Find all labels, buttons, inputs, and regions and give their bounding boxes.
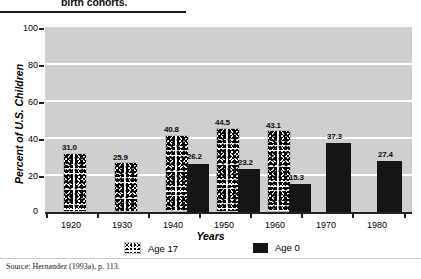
bar-label-age0-1940: 26.2	[187, 152, 202, 161]
x-tick-label-1960: 1960	[255, 220, 295, 230]
legend-swatch-age0-icon	[253, 243, 268, 253]
bar-age17-1940	[165, 135, 189, 213]
bar-label-age17-1930: 25.9	[113, 153, 128, 162]
y-tick-mark-60	[39, 102, 44, 104]
y-tick-mark-100	[39, 28, 44, 30]
bar-label-age0-1970: 37.3	[327, 132, 342, 141]
bar-age0-1960	[289, 184, 311, 212]
gridline-80	[45, 63, 412, 65]
x-axis-line	[45, 212, 412, 214]
x-tick-label-1970: 1970	[306, 220, 346, 230]
x-tick-mark-5	[301, 213, 303, 218]
x-tick-mark-6	[352, 213, 354, 218]
x-tick-label-1980: 1980	[357, 220, 397, 230]
bar-age17-1950	[216, 128, 240, 212]
bar-label-age17-1940: 40.8	[164, 125, 179, 134]
y-tick-mark-80	[39, 65, 44, 67]
bar-age0-1970	[326, 143, 351, 212]
legend-label-age0: Age 0	[275, 242, 300, 253]
x-tick-mark-7	[404, 213, 406, 218]
bar-label-age17-1960: 43.1	[266, 121, 281, 130]
bar-age17-1920	[63, 153, 87, 212]
plot-area: 31.0 25.9 40.8 26.2 44.5 23.2 43.1 15.3 …	[45, 27, 412, 212]
source-note: Source: Hernandez (1993a), p. 113.	[6, 262, 120, 271]
bar-label-age0-1960: 15.3	[289, 173, 304, 182]
x-tick-label-1920: 1920	[51, 220, 91, 230]
x-tick-label-1940: 1940	[153, 220, 193, 230]
source-divider	[0, 258, 421, 259]
x-tick-mark-1	[97, 213, 99, 218]
bar-label-age17-1920: 31.0	[62, 143, 77, 152]
y-tick-mark-40	[39, 139, 44, 141]
x-tick-label-1930: 1930	[102, 220, 142, 230]
gridline-60	[45, 100, 412, 102]
x-tick-mark-0	[46, 213, 48, 218]
bar-age17-1960	[267, 130, 291, 212]
legend-swatch-age17-icon	[124, 242, 141, 254]
x-tick-mark-3	[199, 213, 201, 218]
y-tick-label-80: 80	[12, 60, 38, 70]
bar-age17-1930	[114, 162, 138, 212]
bar-age0-1980	[377, 161, 402, 212]
chart-legend: Age 17 Age 0	[0, 242, 421, 256]
y-tick-label-40: 40	[12, 134, 38, 144]
y-tick-label-0: 0	[12, 206, 38, 216]
legend-item-age17: Age 17	[124, 242, 178, 254]
x-tick-mark-4	[250, 213, 252, 218]
y-tick-label-100: 100	[12, 23, 38, 33]
x-tick-mark-2	[148, 213, 150, 218]
x-axis-label: Years	[0, 230, 421, 242]
y-tick-label-60: 60	[12, 97, 38, 107]
bar-age0-1940	[187, 164, 209, 213]
bar-label-age0-1950: 23.2	[238, 158, 253, 167]
legend-item-age0: Age 0	[253, 242, 300, 253]
bar-age0-1950	[238, 169, 260, 212]
y-tick-mark-20	[39, 176, 44, 178]
bar-label-age17-1950: 44.5	[215, 118, 230, 127]
y-tick-label-20: 20	[12, 171, 38, 181]
legend-label-age17: Age 17	[148, 243, 178, 254]
bar-chart-figure: Percent of U.S. Children 100 80 60 40 20…	[0, 0, 421, 279]
x-tick-label-1950: 1950	[204, 220, 244, 230]
bar-label-age0-1980: 27.4	[378, 150, 393, 159]
